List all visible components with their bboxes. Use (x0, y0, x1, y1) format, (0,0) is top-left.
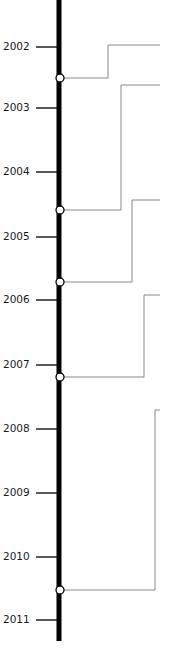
event-node-marker[interactable] (56, 278, 64, 286)
year-label: 2004 (3, 165, 30, 177)
year-label: 2007 (3, 358, 30, 370)
year-label: 2011 (3, 613, 30, 625)
timeline-diagram: 2002200320042005200620072008200920102011 (0, 0, 169, 648)
year-label: 2002 (3, 40, 30, 52)
event-connectors (59, 45, 160, 590)
year-label: 2008 (3, 422, 30, 434)
event-node-marker[interactable] (56, 74, 64, 82)
event-node-marker[interactable] (56, 206, 64, 214)
year-labels: 2002200320042005200620072008200920102011 (3, 40, 30, 625)
year-ticks (36, 47, 59, 620)
event-connector (59, 295, 160, 377)
event-connector (59, 200, 160, 282)
event-connector (59, 85, 160, 210)
year-label: 2005 (3, 230, 30, 242)
year-label: 2010 (3, 550, 30, 562)
event-node-marker[interactable] (56, 373, 64, 381)
event-node-marker[interactable] (56, 586, 64, 594)
event-connector (59, 45, 160, 78)
year-label: 2006 (3, 293, 30, 305)
year-label: 2009 (3, 486, 30, 498)
event-connector (59, 410, 160, 590)
year-label: 2003 (3, 101, 30, 113)
